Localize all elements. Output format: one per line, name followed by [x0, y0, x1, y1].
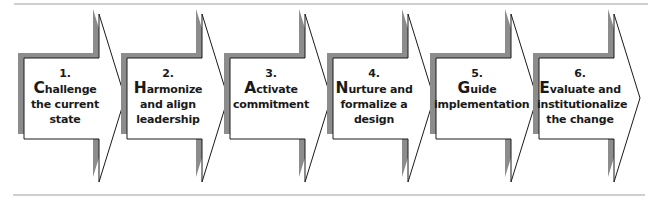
step-initial: A — [244, 79, 256, 97]
step-line: armonize — [147, 83, 203, 96]
step-line: the current — [22, 97, 108, 112]
step-number: 5. — [434, 66, 520, 81]
step-line: formalize a — [331, 97, 417, 112]
step-line: design — [331, 112, 417, 127]
step-line: commitment — [228, 97, 314, 112]
step-line: hallenge — [45, 83, 97, 96]
step-line: implementation — [434, 97, 520, 112]
step-line: uide — [470, 83, 496, 96]
step-initial: G — [458, 79, 471, 97]
bottom-rule — [13, 194, 645, 196]
step-initial: E — [539, 79, 550, 97]
step-5: 5. Guide implementation — [434, 66, 520, 112]
step-line: valuate and — [550, 83, 621, 96]
step-6: 6. Evaluate and institutionalize the cha… — [537, 66, 623, 127]
step-2: 2. Harmonize and align leadership — [125, 66, 211, 127]
step-line: the change — [537, 112, 623, 127]
step-line: state — [22, 112, 108, 127]
step-line: institutionalize — [537, 97, 623, 112]
step-3: 3. Activate commitment — [228, 66, 314, 112]
step-number: 3. — [228, 66, 314, 81]
step-line: ctivate — [256, 83, 297, 96]
step-initial: C — [33, 79, 44, 97]
step-line: leadership — [125, 112, 211, 127]
step-1: 1. Challenge the current state — [22, 66, 108, 127]
step-initial: N — [335, 79, 348, 97]
step-line: urture and — [348, 83, 412, 96]
step-line: and align — [125, 97, 211, 112]
step-initial: H — [134, 79, 147, 97]
step-4: 4. Nurture and formalize a design — [331, 66, 417, 127]
